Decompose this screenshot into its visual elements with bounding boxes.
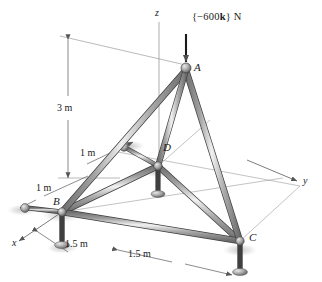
- dimension-label-1m-lower: 1 m: [36, 183, 51, 193]
- member-B-D: [62, 166, 158, 212]
- joint-A: [181, 63, 191, 73]
- node-label-B: B: [53, 196, 60, 207]
- axis-label-z: z: [155, 8, 159, 18]
- node-label-D: D: [163, 142, 171, 153]
- load-label-suffix: } N: [226, 11, 242, 22]
- dimension-label-1.5m-left: 1.5 m: [65, 239, 88, 249]
- load-label-prefix: {−600: [192, 11, 220, 22]
- dimension-label-3m: 3 m: [57, 103, 72, 113]
- load-label: {−600k} N: [192, 12, 242, 23]
- joint-D: [154, 162, 162, 170]
- joint-B: [58, 208, 66, 216]
- ground-plane-guides: [62, 120, 300, 241]
- axis-y: [247, 160, 297, 181]
- space-truss-figure: [0, 0, 322, 282]
- dimension-label-1.5m-right: 1.5 m: [128, 249, 151, 259]
- axis-label-x: x: [12, 238, 16, 248]
- node-label-A: A: [194, 62, 201, 73]
- node-label-C: C: [249, 232, 256, 243]
- joint-C: [236, 237, 244, 245]
- dimension-label-1m-upper: 1 m: [80, 148, 95, 158]
- dimension-height-3m: [58, 36, 190, 178]
- axis-label-y: y: [303, 176, 307, 186]
